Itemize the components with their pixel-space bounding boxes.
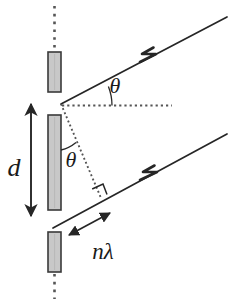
angle-label-upper: θ — [110, 73, 121, 98]
outgoing-ray-lower-arrowhead — [140, 166, 157, 181]
slit-barrier-middle — [48, 115, 61, 210]
slit-barrier-bottom — [48, 232, 61, 272]
slit-barrier-top — [48, 52, 61, 92]
path-difference-label: nλ — [92, 239, 114, 264]
diffraction-diagram: d θ θ nλ — [0, 0, 231, 303]
outgoing-ray-upper-arrowhead — [140, 48, 156, 63]
right-angle-marker — [92, 184, 107, 195]
slit-separation-label: d — [8, 153, 22, 182]
angle-label-lower: θ — [66, 147, 77, 172]
diagram-canvas: d θ θ nλ — [0, 0, 231, 303]
